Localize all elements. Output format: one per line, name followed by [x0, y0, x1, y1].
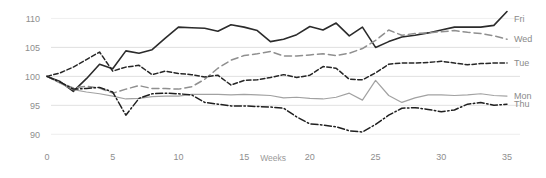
y-tick-label: 95 — [30, 101, 40, 111]
series-label-thu: Thu — [514, 99, 530, 109]
x-tick-label: 0 — [44, 152, 49, 162]
x-axis-title: Weeks — [260, 153, 286, 163]
series-line-tue — [47, 52, 507, 85]
y-tick-label: 100 — [25, 72, 40, 82]
line-chart: 1101051009590 05101520253035 FriWedTueMo… — [0, 0, 546, 178]
gridlines-group — [51, 18, 520, 134]
y-tick-label: 90 — [30, 130, 40, 140]
y-tick-label: 110 — [26, 14, 40, 24]
series-label-fri: Fri — [514, 14, 525, 24]
x-tick-label: 25 — [371, 152, 381, 162]
series-label-tue: Tue — [514, 58, 529, 68]
series-labels-group: FriWedTueMonThu — [514, 14, 532, 109]
x-tick-label: 10 — [173, 152, 183, 162]
series-line-thu — [47, 76, 507, 132]
x-tick-label: 5 — [110, 152, 115, 162]
series-line-fri — [47, 11, 507, 91]
chart-canvas: 1101051009590 05101520253035 FriWedTueMo… — [0, 0, 546, 178]
y-tick-label: 105 — [25, 43, 40, 53]
series-group — [47, 11, 507, 132]
x-tick-label: 15 — [239, 152, 249, 162]
x-tick-label: 35 — [502, 152, 512, 162]
x-tick-label: 30 — [436, 152, 446, 162]
series-label-wed: Wed — [514, 34, 532, 44]
y-axis-ticks: 1101051009590 — [25, 14, 40, 140]
x-tick-label: 20 — [305, 152, 315, 162]
